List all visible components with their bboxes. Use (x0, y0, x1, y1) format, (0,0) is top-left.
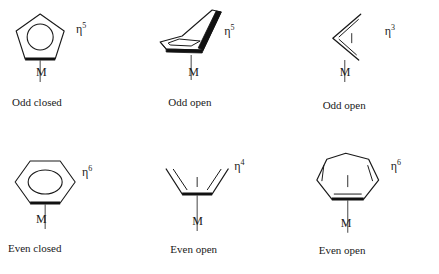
structure-cell-benzene: η6 M Even closed (0, 137, 146, 274)
structure-caption: Odd closed (12, 97, 62, 108)
hapticity-value: 3 (391, 23, 395, 32)
hapticity-label: η4 (234, 159, 244, 172)
metal-label: M (188, 66, 199, 78)
hapticity-value: 4 (241, 158, 245, 167)
open-pentadienyl-icon (146, 0, 292, 137)
hapticity-value: 6 (88, 164, 92, 173)
structure-caption: Even open (170, 244, 217, 255)
metal-label: M (36, 66, 47, 78)
butadiene-double-bond-right (207, 169, 221, 190)
butadiene-double-bond-left (173, 169, 187, 190)
metal-label: M (36, 213, 47, 225)
heptagon-double-bond-right (367, 165, 372, 181)
butadiene-icon (146, 137, 292, 274)
structure-caption: Odd open (168, 97, 211, 108)
hapticity-label: η3 (385, 24, 395, 37)
hapticity-value: 6 (397, 158, 401, 167)
structure-cell-cyclopentadienyl: η5 M Odd closed (0, 0, 146, 137)
hapticity-value: 5 (231, 23, 235, 32)
pentadienyl-wedge-bottom (166, 49, 203, 53)
structure-cell-pentadienyl: η5 M Odd open (146, 0, 292, 137)
structure-caption: Even closed (8, 243, 61, 254)
allyl-icon (293, 0, 439, 137)
structure-caption: Even open (319, 245, 366, 256)
hapticity-label: η6 (82, 165, 92, 178)
structure-cell-cycloheptatriene: η6 M Even open (293, 137, 439, 274)
aromatic-ellipse (28, 170, 62, 194)
aromatic-circle (27, 24, 53, 50)
metal-label: M (192, 215, 203, 227)
cycloheptatriene-icon (293, 137, 439, 274)
pentagon-outline (16, 14, 64, 59)
allyl-double-bond-upper (338, 19, 358, 37)
hexagon-outline (15, 161, 75, 203)
metal-label: M (341, 217, 352, 229)
cyclopentadienyl-icon (0, 0, 146, 137)
hapticity-label: η5 (76, 22, 86, 35)
structure-cell-butadiene: η4 M Even open (146, 137, 292, 274)
hapticity-label: η6 (391, 159, 401, 172)
structure-caption: Odd open (323, 100, 366, 111)
allyl-double-bond-lower (338, 39, 356, 55)
hapticity-label: η5 (224, 24, 234, 37)
structure-cell-allyl: η3 M Odd open (293, 0, 439, 137)
hapticity-value: 5 (82, 21, 86, 30)
structure-grid: η5 M Odd closed η5 M Odd open (0, 0, 439, 274)
metal-label: M (340, 66, 351, 78)
